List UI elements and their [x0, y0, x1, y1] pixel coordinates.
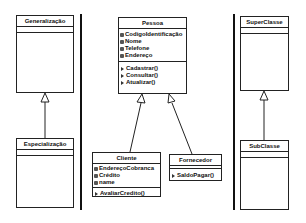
operation-icon — [121, 81, 125, 84]
operation: Atualizar() — [121, 79, 184, 86]
class-especializacao[interactable]: Especialização — [16, 138, 74, 208]
operation-icon — [95, 192, 99, 195]
operations-compartment — [241, 158, 288, 160]
attributes-compartment: CodigoIdentificação Nome Telefone Endere… — [119, 29, 186, 62]
class-pessoa[interactable]: Pessoa CodigoIdentificação Nome Telefone… — [118, 17, 187, 94]
class-name: SubClasse — [241, 141, 288, 152]
operations-compartment: Cadastrar() Consultar() Atualizar() — [119, 62, 186, 89]
operation: AvaliarCredito() — [95, 190, 158, 197]
operations-compartment: AvaliarCredito() — [93, 188, 160, 199]
operation-icon — [172, 174, 176, 177]
attribute-icon — [120, 33, 124, 37]
attribute: Crédito — [94, 172, 159, 179]
operations-compartment — [17, 156, 73, 158]
class-subclasse[interactable]: SubClasse — [240, 140, 289, 210]
attribute: name — [94, 179, 159, 186]
attribute-icon — [120, 47, 124, 51]
operation: SaldoPagar() — [172, 172, 219, 179]
class-name: SuperClasse — [241, 17, 288, 28]
operation: Cadastrar() — [121, 65, 184, 72]
class-fornecedor[interactable]: Fornecedor SaldoPagar() — [169, 154, 222, 181]
class-generalizacao[interactable]: Generalização — [16, 15, 74, 93]
operation-icon — [121, 74, 125, 77]
class-superclasse[interactable]: SuperClasse — [240, 16, 289, 91]
operation: Consultar() — [121, 72, 184, 79]
operations-compartment: SaldoPagar() — [170, 169, 221, 182]
attribute: Telefone — [120, 45, 185, 52]
class-name: Cliente — [93, 153, 160, 164]
attribute: Endereço — [120, 52, 185, 59]
attributes-compartment: EndereçoCobranca Crédito name — [93, 164, 160, 188]
attribute: EndereçoCobranca — [94, 165, 159, 172]
attribute-icon — [94, 181, 98, 185]
class-name: Pessoa — [119, 18, 186, 29]
attribute-icon — [94, 167, 98, 171]
class-cliente[interactable]: Cliente EndereçoCobranca Crédito name Av… — [92, 152, 161, 197]
class-name: Fornecedor — [170, 155, 221, 166]
attribute: Nome — [120, 38, 185, 45]
operations-compartment — [241, 34, 288, 36]
class-name: Generalização — [17, 16, 73, 27]
attribute: CodigoIdentificação — [120, 31, 185, 38]
operation-icon — [121, 67, 125, 70]
attribute-icon — [120, 40, 124, 44]
attribute-icon — [120, 54, 124, 58]
attribute-icon — [94, 174, 98, 178]
operations-compartment — [17, 33, 73, 35]
class-name: Especialização — [17, 139, 73, 150]
